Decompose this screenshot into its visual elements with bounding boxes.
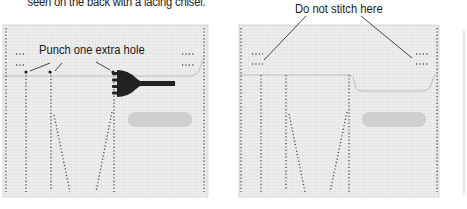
annotation-punch-extra-hole: Punch one extra hole (39, 42, 145, 57)
right-panel (239, 16, 439, 197)
annotation-do-not-stitch: Do not stitch here (295, 1, 383, 16)
stitching-diagram (0, 0, 467, 209)
